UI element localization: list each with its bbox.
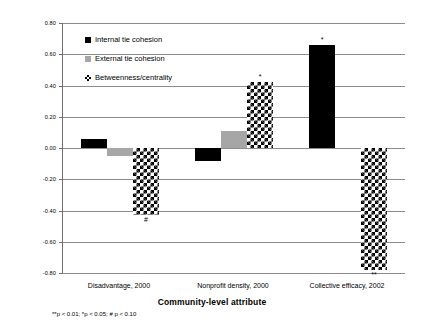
y-axis-tick-label: -0.40 [16,208,56,214]
x-axis-category-label: Nonprofit density, 2000 [176,282,290,289]
y-axis-tick-mark [59,273,63,274]
legend-swatch-external-icon [85,56,91,62]
legend-item-external-tie-cohesion: External tie cohesion [85,49,217,68]
legend-label-betweenness: Betweenness/centrality [95,73,172,82]
significance-marker: * [309,36,335,43]
bar-internal [195,148,221,161]
chart-footnote: **p < 0.01; *p < 0.05; # p < 0.10 [52,311,136,317]
bar-external [221,131,247,148]
bar-external [107,148,133,156]
significance-marker: # [133,216,159,223]
significance-marker: ** [361,271,387,278]
bar-group: *** [291,23,405,273]
legend-swatch-betweenness-icon [85,75,91,81]
legend-item-betweenness-centrality: Betweenness/centrality [85,68,217,87]
y-axis-tick-label: 0.00 [16,145,56,151]
legend-item-internal-tie-cohesion: Internal tie cohesion [85,30,217,49]
x-axis-category-label: Disadvantage, 2000 [62,282,176,289]
gridline [63,273,405,274]
y-axis-tick-label: 0.20 [16,114,56,120]
significance-marker: * [247,73,273,80]
bar-internal [81,139,107,148]
bar-between [133,148,159,215]
y-axis-tick-label: 0.40 [16,83,56,89]
bar-between [361,148,387,270]
x-axis-category-label: Collective efficacy, 2002 [290,282,404,289]
legend-label-external: External tie cohesion [95,54,165,63]
x-axis-title: Community-level attribute [0,297,424,307]
y-axis-tick-label: -0.20 [16,176,56,182]
chart-legend: Internal tie cohesion External tie cohes… [85,30,217,87]
bar-between [247,82,273,148]
legend-swatch-internal-icon [85,37,91,43]
y-axis-tick-label: 0.80 [16,20,56,26]
y-axis-tick-label: -0.80 [16,270,56,276]
legend-label-internal: Internal tie cohesion [95,35,162,44]
y-axis-tick-label: 0.60 [16,51,56,57]
chart-figure: Standardized coefficients #**** Internal… [0,0,424,330]
y-axis-tick-label: -0.60 [16,239,56,245]
bar-internal [309,45,335,148]
